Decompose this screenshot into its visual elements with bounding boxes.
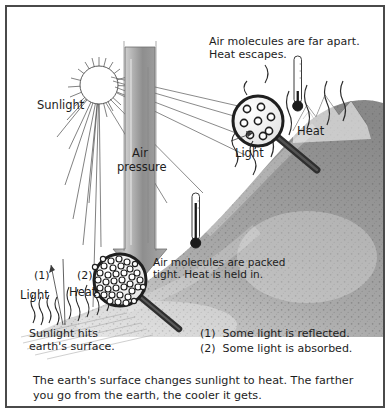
label-heat-top: Heat bbox=[297, 125, 324, 139]
label-heat-bottom: Heat bbox=[69, 286, 96, 300]
legend: (1) Some light is reflected. (2) Some li… bbox=[200, 327, 352, 356]
thermometer-high-altitude bbox=[293, 56, 303, 111]
marker-2: (2) bbox=[77, 270, 93, 283]
label-sunlight: Sunlight bbox=[37, 99, 84, 113]
mountain-slope bbox=[21, 95, 383, 359]
thermometer-low-altitude bbox=[191, 193, 201, 248]
legend-item-2: (2) Some light is absorbed. bbox=[200, 342, 352, 357]
figure-frame: Sunlight Air pressure Air molecules are … bbox=[5, 5, 385, 408]
label-light-top: Light bbox=[235, 147, 264, 161]
figure-page: Sunlight Air pressure Air molecules are … bbox=[0, 0, 392, 415]
figure-caption: The earth's surface changes sunlight to … bbox=[33, 373, 371, 403]
label-air-pressure: Air pressure bbox=[117, 147, 163, 174]
label-sunlight-hits: Sunlight hits earth's surface. bbox=[29, 328, 115, 354]
label-air-packed-tight: Air molecules are packed tight. Heat is … bbox=[153, 256, 285, 281]
marker-1: (1) bbox=[34, 270, 50, 283]
label-air-far-apart: Air molecules are far apart. Heat escape… bbox=[209, 36, 360, 62]
label-light-bottom: Light bbox=[20, 289, 49, 303]
sun-disc bbox=[80, 66, 118, 104]
legend-item-1: (1) Some light is reflected. bbox=[200, 327, 352, 342]
